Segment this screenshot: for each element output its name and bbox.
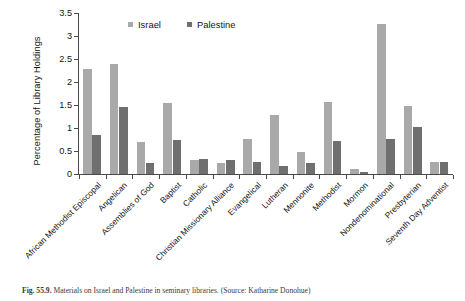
y-tick-label: 2	[38, 78, 72, 87]
bar-group	[159, 13, 186, 174]
bar-palestine	[173, 140, 182, 175]
y-tick-mark	[74, 59, 78, 60]
bar-palestine	[146, 163, 155, 175]
y-tick-label: 0.5	[38, 147, 72, 156]
bar-palestine	[440, 162, 449, 174]
y-tick-mark	[74, 174, 78, 175]
x-tick-mark	[132, 175, 133, 179]
x-tick-mark	[213, 175, 214, 179]
x-category-label: Baptist	[158, 180, 183, 205]
bar-israel	[137, 142, 146, 174]
x-tick-mark	[293, 175, 294, 179]
y-tick-mark	[74, 13, 78, 14]
x-tick-mark	[266, 175, 267, 179]
bars-container	[79, 13, 453, 174]
bar-israel	[190, 160, 199, 174]
y-tick-mark	[74, 82, 78, 83]
bar-israel	[324, 102, 333, 174]
x-tick-mark	[400, 175, 401, 179]
y-tick-mark	[74, 105, 78, 106]
y-tick-mark	[74, 128, 78, 129]
y-tick-label: 1.5	[38, 101, 72, 110]
chart-plot-area: Percentage of Library Holdings 3.532.521…	[0, 0, 465, 275]
bar-israel	[270, 115, 279, 174]
bar-palestine	[199, 159, 208, 174]
x-tick-mark	[186, 175, 187, 179]
bar-palestine	[413, 127, 422, 174]
bar-israel	[297, 152, 306, 174]
x-tick-mark	[159, 175, 160, 179]
y-tick-label: 3.5	[38, 9, 72, 18]
bar-palestine	[226, 160, 235, 174]
figure-number: Fig. 55.9.	[22, 286, 52, 295]
bar-israel	[430, 162, 439, 174]
bar-palestine	[119, 107, 128, 174]
y-tick-label: 3	[38, 32, 72, 41]
bar-israel	[110, 64, 119, 174]
x-tick-mark	[79, 175, 80, 179]
bar-group	[373, 13, 400, 174]
figure-caption-text: Materials on Israel and Palestine in sem…	[53, 286, 310, 295]
x-tick-mark	[373, 175, 374, 179]
bar-palestine	[279, 166, 288, 174]
bar-israel	[404, 106, 413, 174]
x-tick-mark	[453, 175, 454, 179]
bar-israel	[83, 69, 92, 174]
y-tick-mark	[74, 36, 78, 37]
bar-israel	[217, 163, 226, 175]
y-tick-label: 1	[38, 124, 72, 133]
y-tick-mark	[74, 151, 78, 152]
bar-group	[400, 13, 427, 174]
bar-group	[132, 13, 159, 174]
x-category-label: Methodist	[310, 180, 343, 213]
bar-group	[266, 13, 293, 174]
x-tick-mark	[426, 175, 427, 179]
bar-group	[426, 13, 453, 174]
x-axis-category-labels: African Methodist EpiscopalAngelicanAsse…	[0, 174, 465, 274]
bar-palestine	[306, 163, 315, 175]
bar-palestine	[386, 139, 395, 174]
figure-container: Percentage of Library Holdings 3.532.521…	[0, 0, 465, 301]
bar-group	[186, 13, 213, 174]
bar-palestine	[253, 162, 262, 174]
bar-group	[293, 13, 320, 174]
y-tick-label: 2.5	[38, 55, 72, 64]
y-axis-tick-labels: 3.532.521.510.50	[38, 0, 72, 175]
bar-group	[213, 13, 240, 174]
x-tick-mark	[319, 175, 320, 179]
bar-group	[346, 13, 373, 174]
bar-israel	[243, 139, 252, 174]
bar-israel	[163, 103, 172, 174]
x-tick-mark	[346, 175, 347, 179]
bar-israel	[377, 24, 386, 174]
bar-group	[319, 13, 346, 174]
bar-group	[79, 13, 106, 174]
x-category-label: African Methodist Episcopal	[22, 180, 102, 260]
bar-group	[239, 13, 266, 174]
bar-group	[106, 13, 133, 174]
x-tick-mark	[106, 175, 107, 179]
bar-palestine	[92, 135, 101, 174]
bar-palestine	[333, 141, 342, 174]
x-tick-mark	[239, 175, 240, 179]
figure-caption: Fig. 55.9. Materials on Israel and Pales…	[22, 286, 452, 295]
